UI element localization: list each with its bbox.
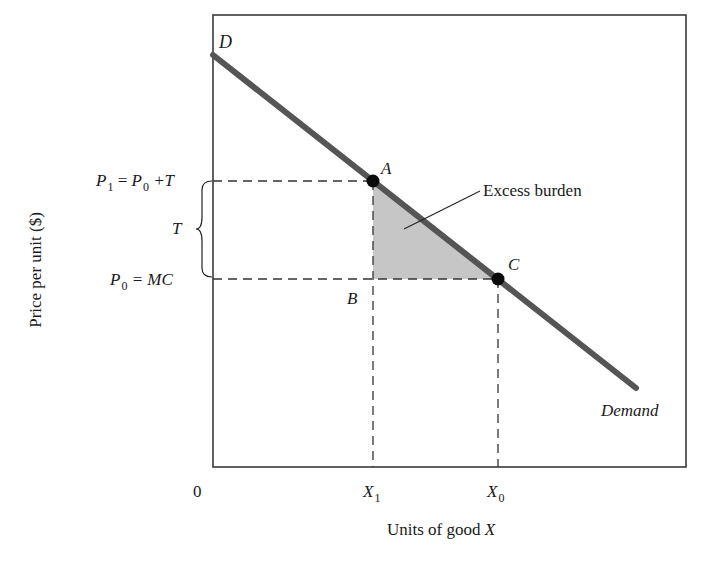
origin-label: 0	[193, 483, 202, 500]
label-d: D	[219, 33, 232, 51]
t-label: T	[172, 220, 181, 237]
x1-label: X1	[363, 483, 380, 500]
x-axis-title: Units of good X	[387, 521, 495, 538]
excess-burden-label: Excess burden	[483, 182, 582, 199]
p0-label: P0 = MC	[110, 271, 173, 288]
label-c: C	[508, 256, 519, 273]
excess-burden-leader	[404, 191, 480, 229]
point-c-marker	[492, 273, 505, 286]
point-a-marker	[367, 175, 380, 188]
x0-label: X0	[487, 483, 504, 500]
demand-curve	[213, 55, 636, 388]
label-b: B	[347, 290, 357, 307]
y-axis-title: Price per unit ($)	[26, 212, 46, 328]
p1-label: P1 = P0 +T	[96, 172, 174, 189]
label-a: A	[381, 160, 391, 177]
demand-label: Demand	[601, 402, 659, 419]
t-brace-icon	[196, 181, 212, 277]
